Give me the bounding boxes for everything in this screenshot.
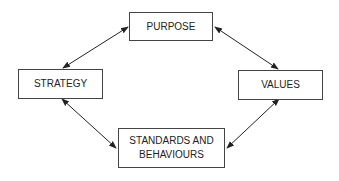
standards-label-2: BEHAVIOURS (139, 148, 204, 162)
strategy-label: STRATEGY (34, 77, 87, 91)
arrow-purpose-values (215, 27, 278, 69)
standards-node: STANDARDS ANDBEHAVIOURS (118, 128, 225, 168)
values-label: VALUES (261, 78, 300, 92)
arrow-values-standards (227, 99, 279, 148)
arrow-purpose-strategy (63, 27, 128, 68)
standards-label-1: STANDARDS AND (129, 134, 213, 148)
arrow-strategy-standards (62, 99, 116, 148)
purpose-label: PURPOSE (147, 20, 196, 34)
purpose-node: PURPOSE (129, 12, 213, 41)
values-node: VALUES (238, 70, 323, 100)
strategy-node: STRATEGY (18, 69, 103, 99)
